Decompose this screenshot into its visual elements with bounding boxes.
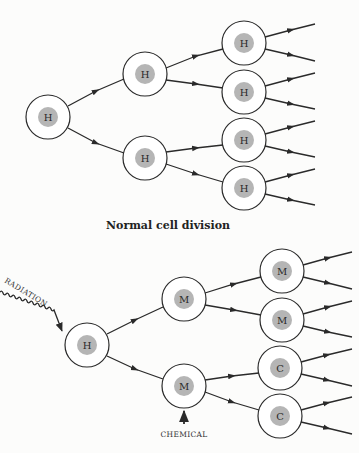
cell-healthy: H [222,70,266,114]
edge-arrow [265,121,315,134]
cell-label: M [277,266,287,277]
cell-label: H [141,69,150,80]
cell-label: H [83,340,92,351]
edge-arrow [205,373,259,380]
edge-arrow [265,24,315,37]
edge-arrow [166,80,223,88]
normal-division-cells: H H H H H H H [26,21,266,210]
cell-label: H [240,135,249,146]
cell-mutated: M [162,364,206,408]
cell-label: H [44,112,53,123]
edge-arrow [68,79,124,106]
radiation-agent: RADIATION [0,276,62,331]
edge-arrow [265,49,315,61]
edge-arrow [301,422,352,434]
edge-arrow [301,349,352,362]
edge-arrow [107,356,163,379]
cell-division-diagram: H H H H H H H Normal cell division RADIA [0,0,359,453]
edge-arrow [265,169,315,182]
cell-label: M [179,381,189,392]
cell-healthy: H [222,21,266,65]
chemical-label: CHEMICAL [161,430,208,439]
edge-arrow [301,397,352,410]
edge-arrow [68,128,124,153]
cell-label: C [276,363,284,374]
cell-label: H [240,38,249,49]
normal-division-edges [68,24,315,205]
edge-arrow [265,194,315,205]
cell-healthy: H [123,52,167,96]
edge-arrow [265,146,315,157]
chemical-agent: CHEMICAL [161,411,208,439]
edge-arrow [166,164,223,182]
edge-arrow [166,145,223,152]
cell-label: M [277,315,287,326]
cell-healthy: H [65,323,109,367]
cell-mutated: M [260,249,304,293]
mutation-edges [107,252,352,434]
cell-label: C [276,411,284,422]
cell-label: H [240,87,249,98]
cell-mutated: M [260,298,304,342]
cell-label: H [141,153,150,164]
edge-arrow [303,301,352,314]
caption-normal-division: Normal cell division [106,219,230,232]
edge-arrow [205,305,261,315]
cell-cancer: C [258,394,302,438]
radiation-label: RADIATION [3,276,49,309]
mutation-cells: H M M M M C C [65,249,304,438]
cell-label: H [240,183,249,194]
edge-arrow [166,49,223,68]
edge-arrow [205,277,261,293]
cell-label: M [179,294,189,305]
edge-arrow [303,326,352,337]
cell-healthy: H [222,118,266,162]
cell-healthy: H [26,95,70,139]
edge-arrow [265,98,315,109]
cell-healthy: H [222,166,266,210]
edge-arrow [301,374,352,386]
edge-arrow [303,277,352,289]
edge-arrow [205,392,259,410]
edge-arrow [265,73,315,86]
edge-arrow [303,252,352,265]
cell-cancer: C [258,346,302,390]
cell-mutated: M [162,277,206,321]
cell-healthy: H [123,136,167,180]
edge-arrow [107,307,163,334]
